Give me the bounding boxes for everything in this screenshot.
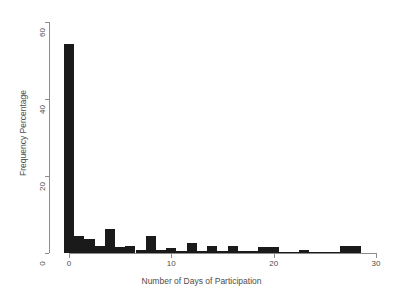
histogram-bar [74,236,84,253]
x-axis-tick-label: 20 [262,259,286,268]
histogram-bar [207,246,217,253]
y-axis-tick-label: 60 [38,22,47,44]
bar-series [49,18,389,253]
histogram-bar [105,229,115,253]
histogram-bar [64,44,74,253]
x-axis-tick-label: 30 [364,259,388,268]
x-axis-line [69,253,377,254]
y-axis-tick-label: 40 [38,99,47,121]
histogram-bar [146,236,156,253]
x-axis-tick [274,254,275,258]
y-axis-title: Frequency Percentage [18,63,28,203]
x-axis-tick-label: 0 [57,259,81,268]
x-axis-title: Number of Days of Participation [0,276,403,286]
x-axis-tick [69,254,70,258]
x-axis-tick [376,254,377,258]
histogram-figure: 02040600102030 Number of Days of Partici… [0,0,403,298]
x-axis-tick-label: 10 [159,259,183,268]
histogram-bar [187,243,197,253]
x-axis-tick [171,254,172,258]
y-axis-tick-label: 0 [38,253,47,275]
histogram-bar [95,246,105,253]
y-axis-line [49,22,50,253]
y-axis-tick-label: 20 [38,176,47,198]
plot-area [49,18,389,253]
histogram-bar [84,239,94,253]
